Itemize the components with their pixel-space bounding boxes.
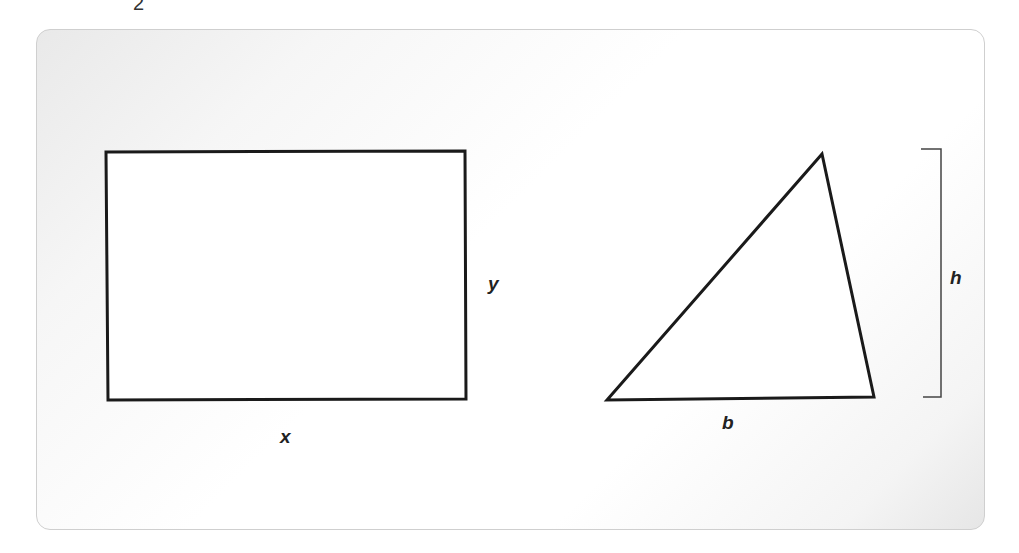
triangle-shape bbox=[607, 154, 874, 400]
rectangle-width-label: x bbox=[279, 426, 292, 447]
rectangle-height-label: y bbox=[487, 273, 500, 294]
triangle-base-label: b bbox=[722, 412, 734, 433]
height-bracket bbox=[921, 149, 941, 397]
geometry-figure: x y b h bbox=[0, 0, 1019, 553]
triangle-height-label: h bbox=[950, 267, 962, 288]
rectangle-shape bbox=[106, 151, 466, 400]
